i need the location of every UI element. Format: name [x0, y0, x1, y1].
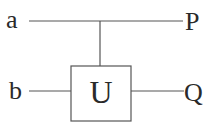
- label-a: a: [6, 5, 18, 34]
- label-p: P: [185, 7, 199, 36]
- label-b: b: [9, 76, 22, 105]
- label-q: Q: [184, 78, 203, 107]
- gate-label-u: U: [89, 74, 112, 110]
- circuit-diagram: a b P Q U: [0, 0, 216, 128]
